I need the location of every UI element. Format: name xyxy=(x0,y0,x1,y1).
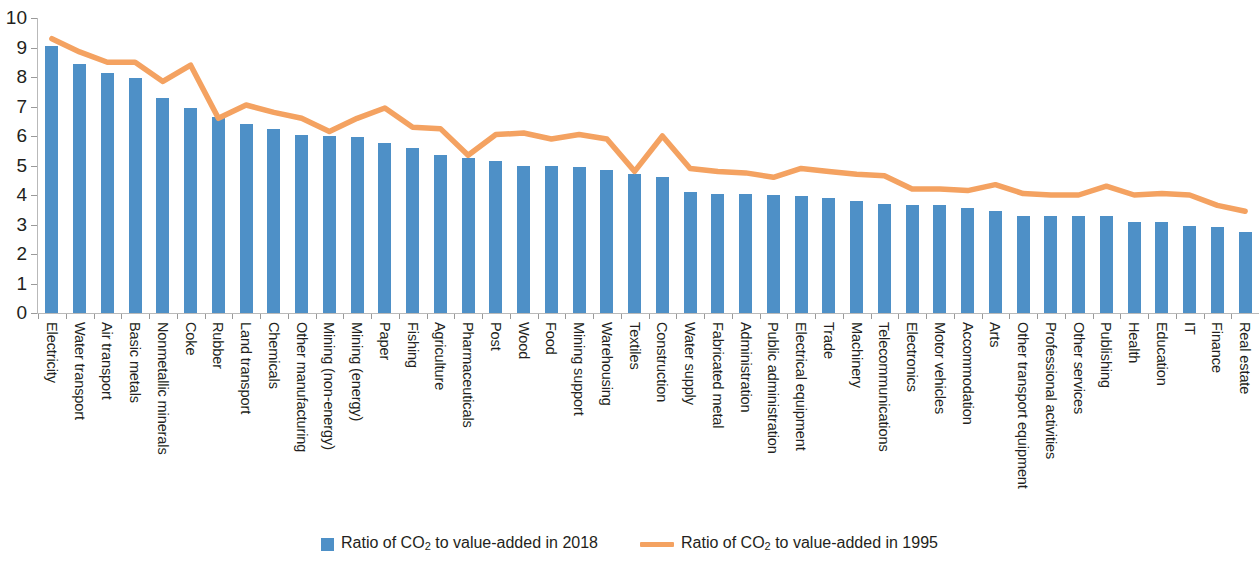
bar xyxy=(933,205,946,313)
bar xyxy=(517,166,530,314)
x-category-label: Mining support xyxy=(572,322,587,416)
x-category-label: Education xyxy=(1155,322,1170,386)
x-tick-mark xyxy=(288,314,289,319)
y-tick-mark xyxy=(31,77,37,78)
x-category-label: Rubber xyxy=(211,322,226,369)
y-tick-label: 9 xyxy=(1,38,27,57)
x-tick-mark xyxy=(898,314,899,319)
bar xyxy=(906,205,919,313)
bar xyxy=(462,158,475,313)
x-category-label: Fishing xyxy=(405,322,420,368)
x-category-label: Trade xyxy=(822,322,837,359)
x-tick-mark xyxy=(1065,314,1066,319)
bar xyxy=(573,167,586,313)
legend-label-2018: Ratio of CO2 to value-added in 2018 xyxy=(341,534,598,555)
y-tick-label: 5 xyxy=(1,156,27,175)
bar xyxy=(1072,216,1085,313)
x-category-label: Construction xyxy=(655,322,670,402)
x-category-label: Real estate xyxy=(1238,322,1253,394)
legend-bar-swatch-icon xyxy=(321,538,334,551)
bar xyxy=(961,208,974,313)
x-tick-mark xyxy=(371,314,372,319)
chart-legend: Ratio of CO2 to value-added in 2018 Rati… xyxy=(0,534,1259,555)
y-tick-label: 10 xyxy=(1,8,27,27)
bar xyxy=(822,198,835,313)
x-tick-mark xyxy=(66,314,67,319)
x-category-label: Electricity xyxy=(45,322,60,383)
x-tick-mark xyxy=(787,314,788,319)
y-tick-label: 7 xyxy=(1,97,27,116)
bar xyxy=(184,108,197,313)
x-tick-mark xyxy=(205,314,206,319)
x-tick-mark xyxy=(94,314,95,319)
bar xyxy=(73,64,86,313)
bar xyxy=(45,46,58,313)
x-tick-mark xyxy=(38,314,39,319)
x-tick-mark xyxy=(427,314,428,319)
x-tick-mark xyxy=(232,314,233,319)
x-category-label: Basic metals xyxy=(128,322,143,403)
legend-item-2018[interactable]: Ratio of CO2 to value-added in 2018 xyxy=(321,534,598,555)
x-category-label: Mining (energy) xyxy=(350,322,365,421)
x-tick-mark xyxy=(565,314,566,319)
x-tick-mark xyxy=(316,314,317,319)
bar xyxy=(489,161,502,313)
x-tick-mark xyxy=(1037,314,1038,319)
x-tick-mark xyxy=(1176,314,1177,319)
x-tick-mark xyxy=(454,314,455,319)
bar xyxy=(1100,216,1113,313)
x-tick-mark xyxy=(260,314,261,319)
bar xyxy=(129,78,142,313)
y-tick-mark xyxy=(31,136,37,137)
y-tick-mark xyxy=(31,18,37,19)
x-category-label: IT xyxy=(1182,322,1197,335)
x-category-label: Telecommunications xyxy=(877,322,892,452)
bar xyxy=(323,136,336,313)
x-tick-mark xyxy=(815,314,816,319)
y-tick-mark xyxy=(31,107,37,108)
x-category-label: Professional activities xyxy=(1044,322,1059,459)
x-tick-mark xyxy=(871,314,872,319)
x-tick-mark xyxy=(1231,314,1232,319)
y-tick-label: 1 xyxy=(1,274,27,293)
bar xyxy=(156,98,169,313)
x-category-label: Public administration xyxy=(766,322,781,454)
legend-label-1995: Ratio of CO2 to value-added in 1995 xyxy=(681,534,938,555)
x-tick-mark xyxy=(621,314,622,319)
x-tick-mark xyxy=(343,314,344,319)
x-tick-mark xyxy=(149,314,150,319)
x-category-label: Health xyxy=(1127,322,1142,363)
y-tick-mark xyxy=(31,254,37,255)
bar xyxy=(1239,232,1252,313)
bar xyxy=(628,174,641,313)
plot-area xyxy=(38,18,1259,313)
y-tick-mark xyxy=(31,284,37,285)
y-tick-label: 0 xyxy=(1,303,27,322)
x-tick-mark xyxy=(538,314,539,319)
bar xyxy=(767,195,780,313)
bar xyxy=(545,166,558,314)
y-tick-mark xyxy=(31,225,37,226)
x-tick-mark xyxy=(926,314,927,319)
y-tick-label: 2 xyxy=(1,244,27,263)
x-category-label: Accommodation xyxy=(960,322,975,425)
x-tick-mark xyxy=(510,314,511,319)
bar xyxy=(434,155,447,313)
x-category-label: Other manufacturing xyxy=(294,322,309,452)
y-tick-label: 4 xyxy=(1,185,27,204)
bar xyxy=(711,194,724,313)
legend-item-1995[interactable]: Ratio of CO2 to value-added in 1995 xyxy=(640,534,938,555)
bar xyxy=(878,204,891,313)
x-category-label: Textiles xyxy=(627,322,642,370)
x-category-label: Food xyxy=(544,322,559,355)
bar xyxy=(240,124,253,313)
x-category-label: Other transport equipment xyxy=(1016,322,1031,489)
bar xyxy=(1211,227,1224,313)
x-tick-mark xyxy=(593,314,594,319)
bar xyxy=(684,192,697,313)
x-tick-mark xyxy=(843,314,844,319)
line-path xyxy=(52,39,1245,212)
x-category-label: Electrical equipment xyxy=(794,322,809,451)
x-category-label: Electronics xyxy=(905,322,920,392)
bar xyxy=(406,148,419,313)
